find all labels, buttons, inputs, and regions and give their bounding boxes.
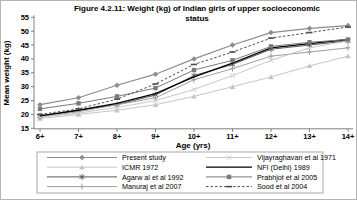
y-tick-label: 30 <box>21 82 29 91</box>
x-tick-label: 12+ <box>265 132 278 141</box>
legend-label: Manuraj et al 2007 <box>122 182 182 191</box>
legend-label: Vijayraghavan et al 1971 <box>257 153 336 162</box>
square-marker <box>269 44 273 48</box>
legend-label: NFI (Delhi) 1989 <box>257 163 310 172</box>
legend-label: Sood et al 2004 <box>257 182 307 191</box>
diamond-marker <box>191 56 197 62</box>
x-tick-label: 9+ <box>151 132 160 141</box>
x-tick-label: 7+ <box>74 132 83 141</box>
legend-label: Agarw al et al 1992 <box>122 173 184 182</box>
square-marker <box>227 175 231 179</box>
figure-4-2-11-chart: Figure 4.2.11: Weight (kg) of Indian gir… <box>0 0 357 200</box>
diamond-marker <box>37 102 43 108</box>
y-tick-label: 45 <box>21 41 29 50</box>
plot-area: 1520253035404550556+7+8+9+10+11+12+13+14… <box>21 13 355 141</box>
diamond-marker <box>307 26 313 32</box>
square-marker <box>153 86 157 90</box>
chart-title-line2: status <box>185 14 209 23</box>
y-tick-label: 25 <box>21 96 29 105</box>
triangle-marker <box>345 54 351 59</box>
y-tick-label: 55 <box>21 13 29 22</box>
series-line <box>40 40 348 116</box>
plus-marker <box>230 66 235 72</box>
legend: Present studyICMR 1972Agarw al et al 199… <box>37 152 336 193</box>
legend-label: ICMR 1972 <box>122 163 158 172</box>
x-tick-label: 14+ <box>342 132 355 141</box>
legend-label: Present study <box>122 153 166 162</box>
diamond-marker <box>230 42 236 48</box>
y-tick-label: 35 <box>21 68 29 77</box>
y-tick-label: 20 <box>21 110 29 119</box>
x-tick-label: 8+ <box>113 132 122 141</box>
diamond-marker <box>114 82 120 88</box>
square-marker <box>38 107 42 111</box>
x-tick-label: 11+ <box>226 132 239 141</box>
diamond-marker <box>76 95 82 101</box>
y-tick-label: 15 <box>21 124 29 133</box>
y-axis-title: Mean weight (kg) <box>2 40 11 105</box>
y-tick-label: 50 <box>21 27 29 36</box>
legend-label: Prabhjot et al 2005 <box>257 173 317 182</box>
x-tick-label: 10+ <box>188 132 201 141</box>
diamond-marker <box>153 71 159 77</box>
weight-line-chart: Figure 4.2.11: Weight (kg) of Indian gir… <box>1 1 356 199</box>
square-marker <box>230 58 234 62</box>
x-marker <box>230 73 235 78</box>
plus-marker <box>346 45 351 51</box>
square-marker <box>192 68 196 72</box>
square-marker <box>346 37 350 41</box>
x-tick-label: 6+ <box>36 132 45 141</box>
square-marker <box>307 40 311 44</box>
y-tick-label: 40 <box>21 54 29 63</box>
chart-title-line1: Figure 4.2.11: Weight (kg) of Indian gir… <box>74 4 321 13</box>
series-nfi-delhi-1989 <box>40 40 348 116</box>
square-marker <box>76 101 80 105</box>
x-axis-title: Age (yrs) <box>176 141 211 150</box>
x-tick-label: 13+ <box>303 132 316 141</box>
square-marker <box>115 94 119 98</box>
diamond-marker <box>268 30 274 36</box>
